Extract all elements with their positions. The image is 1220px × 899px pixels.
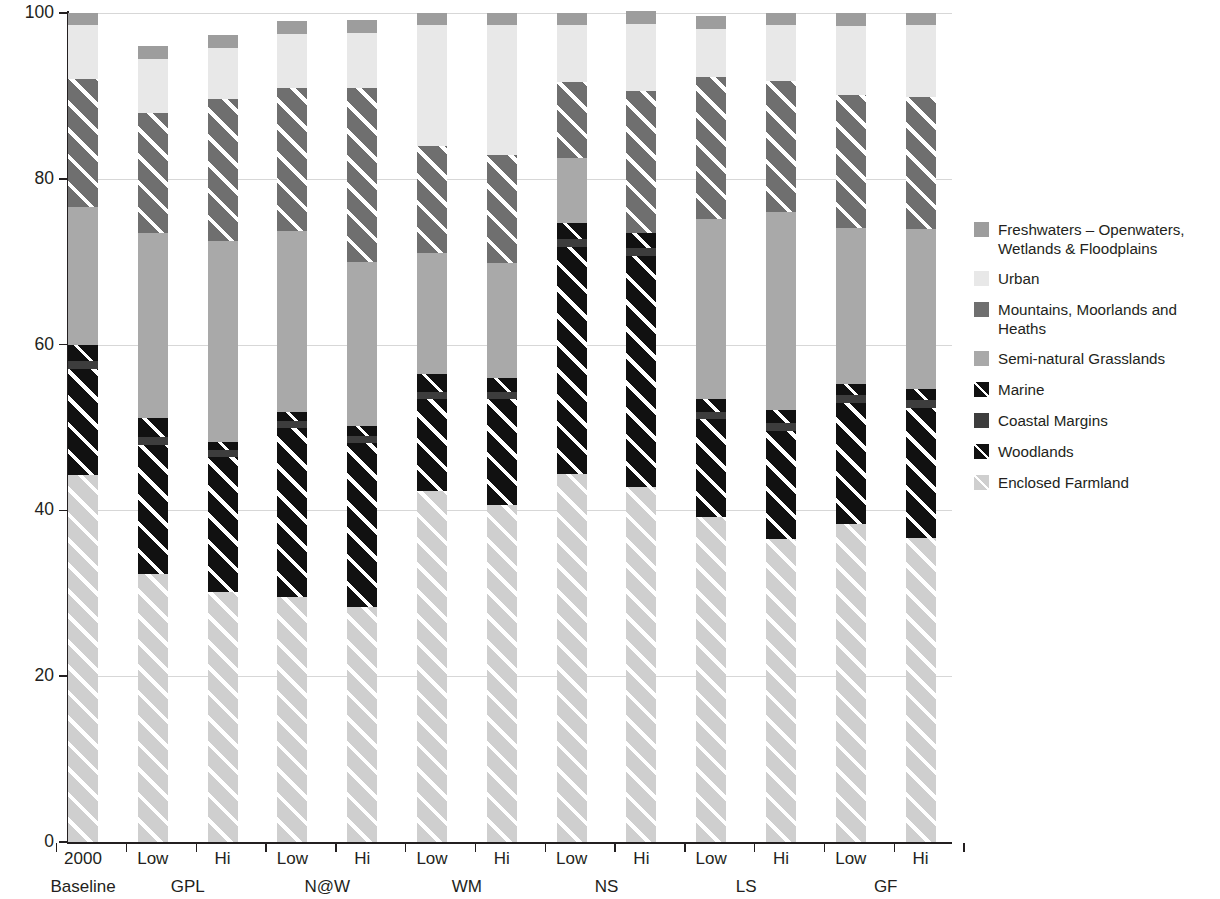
stacked-bar[interactable] xyxy=(766,13,796,842)
stacked-bar[interactable] xyxy=(626,13,656,842)
legend-item[interactable]: Mountains, Moorlands and Heaths xyxy=(974,300,1220,338)
stacked-bar[interactable] xyxy=(557,13,587,842)
stacked-bar[interactable] xyxy=(138,13,168,842)
segment-freshwaters xyxy=(277,21,307,33)
segment-semi-natural-grasslands xyxy=(347,262,377,426)
x-axis-group-label: GPL xyxy=(113,878,263,895)
segment-mountains-moorlands-heaths xyxy=(626,91,656,233)
segment-urban xyxy=(208,48,238,99)
segment-enclosed-farmland xyxy=(277,597,307,842)
segment-semi-natural-grasslands xyxy=(766,212,796,410)
legend-item[interactable]: Woodlands xyxy=(974,442,1220,462)
segment-coastal-margins xyxy=(766,423,796,430)
farmland-swatch xyxy=(974,475,989,490)
y-axis-tick-label: 60 xyxy=(4,336,54,354)
segment-mountains-moorlands-heaths xyxy=(487,155,517,263)
segment-freshwaters xyxy=(557,13,587,25)
x-axis-tick-mark xyxy=(963,843,964,852)
segment-mountains-moorlands-heaths xyxy=(68,79,98,207)
segment-enclosed-farmland xyxy=(347,607,377,842)
legend-item-label: Marine xyxy=(998,380,1220,399)
segment-urban xyxy=(277,34,307,89)
segment-semi-natural-grasslands xyxy=(138,233,168,418)
segment-mountains-moorlands-heaths xyxy=(347,88,377,261)
marine-swatch xyxy=(974,382,989,397)
segment-woodlands xyxy=(487,378,517,392)
legend-item[interactable]: Enclosed Farmland xyxy=(974,473,1220,493)
stacked-bar[interactable] xyxy=(208,13,238,842)
segment-coastal-margins xyxy=(557,239,587,246)
legend-item-label: Freshwaters – Openwaters, xyxy=(998,220,1220,239)
x-axis-group-label: GF xyxy=(811,878,961,895)
segment-mountains-moorlands-heaths xyxy=(277,88,307,231)
segment-woodlands xyxy=(277,412,307,421)
segment-marine xyxy=(557,247,587,474)
segment-urban xyxy=(906,25,936,96)
stacked-bar[interactable] xyxy=(347,13,377,842)
segment-freshwaters xyxy=(906,13,936,25)
segment-mountains-moorlands-heaths xyxy=(138,113,168,232)
segment-woodlands xyxy=(68,345,98,362)
stacked-bar[interactable] xyxy=(487,13,517,842)
segment-woodlands xyxy=(208,442,238,449)
y-axis-tick-label: 80 xyxy=(4,170,54,188)
stacked-bar[interactable] xyxy=(68,13,98,842)
segment-coastal-margins xyxy=(347,436,377,443)
stacked-bar[interactable] xyxy=(836,13,866,842)
segment-woodlands xyxy=(766,410,796,423)
x-axis-line xyxy=(67,842,952,844)
legend-item[interactable]: Semi-natural Grasslands xyxy=(974,349,1220,369)
coastal-swatch xyxy=(974,413,989,428)
stacked-bar[interactable] xyxy=(696,13,726,842)
segment-woodlands xyxy=(696,399,726,412)
segment-coastal-margins xyxy=(696,412,726,419)
legend-item[interactable]: Freshwaters – Openwaters,Wetlands & Floo… xyxy=(974,220,1220,258)
legend-item[interactable]: Coastal Margins xyxy=(974,411,1220,431)
segment-marine xyxy=(417,399,447,491)
y-axis-tick-label: 0 xyxy=(4,833,54,851)
segment-mountains-moorlands-heaths xyxy=(696,77,726,220)
segment-semi-natural-grasslands xyxy=(696,219,726,398)
segment-marine xyxy=(277,428,307,596)
legend-item[interactable]: Marine xyxy=(974,380,1220,400)
segment-freshwaters xyxy=(417,13,447,25)
segment-coastal-margins xyxy=(836,395,866,402)
segment-coastal-margins xyxy=(906,400,936,407)
segment-urban xyxy=(68,25,98,79)
segment-urban xyxy=(347,33,377,89)
legend-item-label: Coastal Margins xyxy=(998,411,1220,430)
segment-mountains-moorlands-heaths xyxy=(208,99,238,241)
legend-item[interactable]: Urban xyxy=(974,269,1220,289)
segment-freshwaters xyxy=(138,46,168,58)
segment-freshwaters xyxy=(766,13,796,25)
segment-woodlands xyxy=(417,374,447,392)
stacked-bar[interactable] xyxy=(277,13,307,842)
legend-item-label: Mountains, Moorlands and Heaths xyxy=(998,300,1220,338)
stacked-bar[interactable] xyxy=(906,13,936,842)
segment-woodlands xyxy=(138,418,168,438)
segment-marine xyxy=(836,403,866,524)
segment-enclosed-farmland xyxy=(417,491,447,842)
woodlands-swatch xyxy=(974,444,989,459)
segment-marine xyxy=(626,256,656,487)
segment-marine xyxy=(906,408,936,538)
segment-enclosed-farmland xyxy=(487,505,517,842)
segment-mountains-moorlands-heaths xyxy=(557,82,587,158)
x-axis-group-label: LS xyxy=(671,878,821,895)
segment-freshwaters xyxy=(208,35,238,47)
segment-semi-natural-grasslands xyxy=(277,231,307,412)
segment-woodlands xyxy=(347,426,377,436)
segment-coastal-margins xyxy=(208,450,238,457)
chart-legend: Freshwaters – Openwaters,Wetlands & Floo… xyxy=(974,220,1220,504)
segment-semi-natural-grasslands xyxy=(417,253,447,374)
segment-enclosed-farmland xyxy=(557,474,587,842)
segment-woodlands xyxy=(557,223,587,240)
stacked-bar[interactable] xyxy=(417,13,447,842)
segment-enclosed-farmland xyxy=(68,475,98,842)
y-axis-tick-label: 20 xyxy=(4,667,54,685)
segment-urban xyxy=(626,24,656,91)
segment-marine xyxy=(487,399,517,505)
segment-urban xyxy=(696,29,726,77)
segment-semi-natural-grasslands xyxy=(68,207,98,345)
segment-enclosed-farmland xyxy=(766,539,796,842)
